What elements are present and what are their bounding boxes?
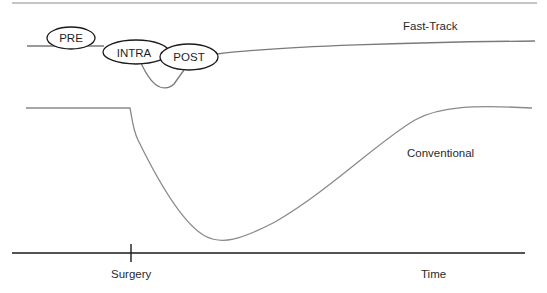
fast-track-curve [27,41,535,88]
pre-label: PRE [59,32,83,44]
phase-pre: PRE [47,27,95,49]
conventional-curve [26,107,532,241]
time-axis-label: Time [421,268,446,280]
post-label: POST [173,51,204,63]
phase-intra: INTRA [103,40,169,64]
intra-label: INTRA [117,47,152,59]
surgery-label: Surgery [111,268,151,280]
phase-post: POST [160,44,218,70]
fast-track-label: Fast-Track [403,20,458,32]
conventional-label: Conventional [407,147,474,159]
